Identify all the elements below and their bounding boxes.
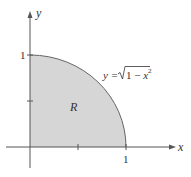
- x-axis-label: x: [177, 140, 184, 154]
- equation-prefix: y =: [102, 69, 121, 81]
- x-axis-arrow-icon: [169, 145, 176, 150]
- region-label: R: [69, 100, 78, 114]
- equation-exponent: 2: [148, 67, 152, 75]
- y-axis-label: y: [35, 6, 42, 20]
- y-tick-label: 1: [20, 49, 26, 61]
- quarter-circle-diagram: y x 1 1 R y = 1 − x 2: [0, 0, 191, 177]
- curve-equation: y = 1 − x 2: [102, 67, 152, 82]
- y-axis-arrow-icon: [28, 11, 33, 18]
- x-tick-label: 1: [123, 153, 129, 165]
- equation-radicand: 1 − x: [126, 69, 148, 81]
